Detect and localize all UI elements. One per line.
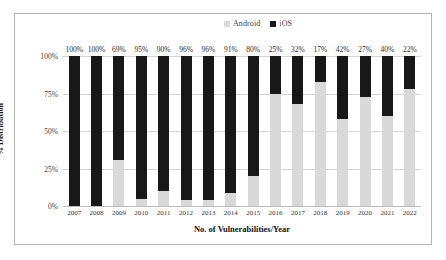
x-axis-tick-label: 2020 [358, 209, 372, 217]
bar-group: 100%2007100%200869%200995%201090%201196%… [63, 56, 421, 206]
stacked-bar[interactable] [136, 56, 147, 206]
y-axis-tick-label: 0% [48, 202, 58, 211]
bar-segment-ios[interactable] [136, 56, 147, 199]
x-axis-tick-label: 2019 [336, 209, 350, 217]
stacked-bar[interactable] [113, 56, 124, 206]
bar-slot: 69%2009 [108, 56, 130, 206]
bar-segment-android[interactable] [382, 116, 393, 206]
bar-segment-ios[interactable] [113, 56, 124, 160]
bar-slot: 42%2019 [332, 56, 354, 206]
bar-segment-ios[interactable] [181, 56, 192, 200]
bar-segment-android[interactable] [292, 104, 303, 206]
bar-data-label: 95% [134, 45, 148, 54]
y-axis-tick-label: 100% [41, 52, 59, 61]
bar-slot: 96%2012 [175, 56, 197, 206]
legend-label-android: Android [233, 19, 260, 28]
stacked-bar[interactable] [315, 56, 326, 206]
x-axis-tick-label: 2012 [179, 209, 193, 217]
x-axis-tick-label: 2022 [403, 209, 417, 217]
x-axis-tick-label: 2013 [201, 209, 215, 217]
stacked-bar[interactable] [181, 56, 192, 206]
bar-segment-android[interactable] [337, 119, 348, 206]
bar-segment-ios[interactable] [225, 56, 236, 193]
stacked-bar[interactable] [158, 56, 169, 206]
stacked-bar[interactable] [248, 56, 259, 206]
x-axis-tick-label: 2017 [291, 209, 305, 217]
x-axis-tick-label: 2021 [380, 209, 394, 217]
bar-slot: 25%2016 [264, 56, 286, 206]
y-axis-label: % Distribution [0, 103, 5, 155]
stacked-bar[interactable] [91, 56, 102, 206]
bar-slot: 17%2018 [309, 56, 331, 206]
x-axis-tick-label: 2018 [313, 209, 327, 217]
x-axis-tick-label: 2010 [134, 209, 148, 217]
bar-slot: 95%2010 [130, 56, 152, 206]
bar-data-label: 69% [112, 45, 126, 54]
stacked-bar[interactable] [382, 56, 393, 206]
stacked-bar[interactable] [69, 56, 80, 206]
bar-segment-ios[interactable] [292, 56, 303, 104]
bar-segment-ios[interactable] [382, 56, 393, 116]
bar-segment-ios[interactable] [337, 56, 348, 119]
stacked-bar[interactable] [337, 56, 348, 206]
bar-segment-ios[interactable] [248, 56, 259, 176]
chart-legend: Android iOS [15, 19, 431, 28]
bar-data-label: 25% [269, 45, 283, 54]
bar-segment-ios[interactable] [270, 56, 281, 94]
bar-segment-ios[interactable] [158, 56, 169, 191]
bar-slot: 27%2020 [354, 56, 376, 206]
x-axis-tick-label: 2008 [90, 209, 104, 217]
bar-data-label: 32% [291, 45, 305, 54]
bar-data-label: 17% [313, 45, 327, 54]
bar-segment-ios[interactable] [203, 56, 214, 200]
bar-segment-ios[interactable] [69, 56, 80, 206]
x-axis-tick-label: 2015 [246, 209, 260, 217]
bar-segment-android[interactable] [158, 191, 169, 206]
legend-swatch-android [224, 21, 230, 27]
bar-segment-android[interactable] [360, 97, 371, 207]
stacked-bar[interactable] [404, 56, 415, 206]
bar-data-label: 96% [179, 45, 193, 54]
legend-swatch-ios [270, 21, 276, 27]
bar-data-label: 42% [336, 45, 350, 54]
bar-segment-android[interactable] [136, 199, 147, 207]
stacked-bar[interactable] [270, 56, 281, 206]
bar-data-label: 22% [403, 45, 417, 54]
bar-segment-android[interactable] [181, 200, 192, 206]
bar-segment-android[interactable] [248, 176, 259, 206]
chart-figure: Android iOS % Distribution 0%25%50%75%10… [14, 13, 432, 245]
bar-slot: 91%2014 [220, 56, 242, 206]
x-axis-tick-label: 2011 [157, 209, 171, 217]
bar-slot: 32%2017 [287, 56, 309, 206]
bar-slot: 96%2013 [197, 56, 219, 206]
bar-segment-android[interactable] [315, 82, 326, 207]
stacked-bar[interactable] [203, 56, 214, 206]
bar-segment-android[interactable] [203, 200, 214, 206]
x-axis-tick-label: 2007 [67, 209, 81, 217]
bar-slot: 100%2007 [63, 56, 85, 206]
y-axis-tick-label: 50% [44, 127, 58, 136]
x-axis-tick-label: 2014 [224, 209, 238, 217]
bar-slot: 40%2021 [376, 56, 398, 206]
x-axis-tick-label: 2016 [269, 209, 283, 217]
bar-segment-android[interactable] [225, 193, 236, 207]
stacked-bar[interactable] [360, 56, 371, 206]
bar-segment-android[interactable] [113, 160, 124, 207]
bar-segment-android[interactable] [404, 89, 415, 206]
bar-segment-ios[interactable] [315, 56, 326, 82]
legend-item-ios: iOS [270, 19, 292, 28]
bar-data-label: 80% [246, 45, 260, 54]
bar-data-label: 90% [157, 45, 171, 54]
legend-item-android: Android [224, 19, 260, 28]
stacked-bar[interactable] [292, 56, 303, 206]
legend-label-ios: iOS [279, 19, 292, 28]
stacked-bar[interactable] [225, 56, 236, 206]
bar-segment-ios[interactable] [404, 56, 415, 89]
bar-segment-ios[interactable] [91, 56, 102, 206]
y-axis-tick-label: 75% [44, 89, 58, 98]
bar-segment-android[interactable] [270, 94, 281, 207]
bar-segment-ios[interactable] [360, 56, 371, 97]
bar-slot: 22%2022 [399, 56, 421, 206]
bar-data-label: 40% [381, 45, 395, 54]
y-axis-tick-label: 25% [44, 164, 58, 173]
